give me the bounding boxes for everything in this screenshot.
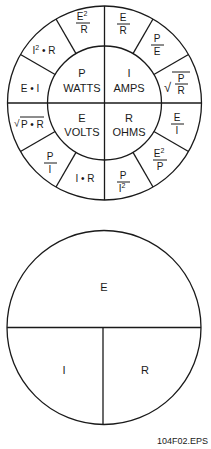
power-unit: WATTS <box>63 82 100 94</box>
svg-text:P • R: P • R <box>21 119 44 130</box>
svg-text:P: P <box>178 73 185 84</box>
sqrt-icon: √ <box>14 118 20 129</box>
formula-e-times-i: E • I <box>21 83 40 94</box>
sqrt-icon: √ <box>164 80 172 95</box>
svg-text:I: I <box>176 125 179 136</box>
svg-text:I2 • R: I2 • R <box>33 44 56 56</box>
current-label: I <box>62 364 65 376</box>
formula-p-over-i: P I <box>44 151 57 175</box>
svg-text:I: I <box>49 164 52 175</box>
ohms-law-circle <box>7 231 201 425</box>
svg-text:R: R <box>177 85 184 96</box>
power-symbol: P <box>78 67 85 79</box>
formula-e-over-i: E I <box>171 112 184 136</box>
quadrant-resistance: R OHMS <box>113 112 146 138</box>
formula-i-times-r: I • R <box>75 173 94 184</box>
formula-e-over-r: E R <box>117 12 130 36</box>
formula-e2-over-r: E2 R <box>76 10 90 35</box>
formula-e2-over-p: E2 P <box>153 147 167 172</box>
svg-text:E2: E2 <box>77 10 88 22</box>
resistance-symbol: R <box>125 112 133 124</box>
svg-text:I • R: I • R <box>75 173 94 184</box>
svg-text:P: P <box>157 161 164 172</box>
voltage-label: E <box>100 281 107 293</box>
quadrant-current: I AMPS <box>113 67 144 94</box>
svg-text:E2: E2 <box>154 147 165 159</box>
resistance-label: R <box>141 364 149 376</box>
figure-caption: 104F02.EPS <box>157 436 208 446</box>
svg-text:P: P <box>120 170 127 181</box>
svg-text:P: P <box>154 33 161 44</box>
current-symbol: I <box>127 67 130 79</box>
formula-p-over-i2: P I2 <box>117 170 130 194</box>
voltage-unit: VOLTS <box>64 126 99 138</box>
svg-text:P: P <box>47 151 54 162</box>
svg-text:E: E <box>120 12 127 23</box>
svg-text:R: R <box>80 24 87 35</box>
quadrant-power: P WATTS <box>63 67 100 94</box>
quadrant-voltage: E VOLTS <box>64 112 99 138</box>
svg-text:E: E <box>174 112 181 123</box>
svg-text:E • I: E • I <box>21 83 40 94</box>
formula-sqrt-p-over-r: √ P R <box>164 72 190 96</box>
resistance-unit: OHMS <box>113 126 146 138</box>
voltage-symbol: E <box>78 112 85 124</box>
formula-sqrt-p-times-r: √ P • R <box>14 117 44 130</box>
svg-text:R: R <box>119 25 126 36</box>
formula-p-over-e: P E <box>151 33 164 57</box>
svg-text:I2: I2 <box>119 182 126 194</box>
current-unit: AMPS <box>113 82 144 94</box>
svg-text:E: E <box>154 46 161 57</box>
formula-i2-times-r: I2 • R <box>33 44 56 56</box>
ohms-law-figure: P WATTS I AMPS E VOLTS R OHMS E2 R I2 • … <box>0 0 211 449</box>
ohms-law-wheel <box>8 6 202 200</box>
